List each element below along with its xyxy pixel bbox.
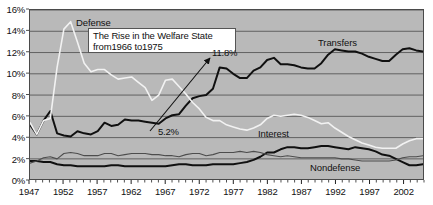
series-label-defense: Defense [76, 17, 111, 28]
callout-line-1: The Rise in the Welfare State [93, 30, 232, 41]
value-label-start: 5.2% [158, 126, 179, 137]
annotation-layer: Defense Transfers Interest Nondefense Th… [0, 0, 433, 205]
series-label-transfers: Transfers [318, 37, 357, 48]
chart-container: 0%2%4%6%8%10%12%14%16% 19471952195719621… [0, 0, 433, 205]
value-label-peak: 11.8% [212, 47, 237, 58]
series-label-nondefense: Nondefense [310, 162, 360, 173]
series-label-interest: Interest [258, 128, 289, 139]
